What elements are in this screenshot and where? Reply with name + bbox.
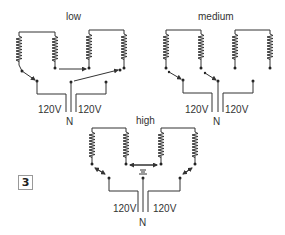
voltage-right: 120V: [225, 104, 249, 115]
diagram-high-label: high: [136, 115, 155, 126]
wiring-diagrams: low 120V 120V N medium: [0, 0, 285, 235]
element-coil-icon: [192, 128, 198, 164]
element-coil-icon: [121, 30, 127, 68]
diagram-medium-label: medium: [198, 11, 234, 22]
diagram-high: high 120V 120V N: [89, 115, 198, 228]
voltage-left: 120V: [113, 203, 137, 214]
neutral-label: N: [139, 217, 146, 228]
voltage-left: 120V: [185, 104, 209, 115]
diagram-medium: medium 120V 120V N: [163, 11, 273, 127]
element-coil-icon: [232, 30, 238, 68]
element-coil-icon: [267, 30, 273, 68]
element-coil-icon: [16, 32, 22, 65]
diagram-low-label: low: [66, 11, 82, 22]
diagram-low: low 120V 120V N: [16, 11, 127, 127]
voltage-right: 120V: [153, 203, 177, 214]
voltage-left: 120V: [38, 104, 62, 115]
element-coil-icon: [158, 128, 164, 164]
voltage-right: 120V: [78, 104, 102, 115]
neutral-label: N: [66, 116, 73, 127]
element-coil-icon: [198, 30, 204, 68]
element-coil-icon: [86, 30, 92, 68]
figure-number-badge: 3: [18, 175, 33, 190]
element-coil-icon: [89, 128, 95, 164]
element-coil-icon: [163, 30, 169, 68]
neutral-label: N: [213, 116, 220, 127]
element-coil-icon: [52, 32, 58, 68]
element-coil-icon: [123, 128, 129, 164]
